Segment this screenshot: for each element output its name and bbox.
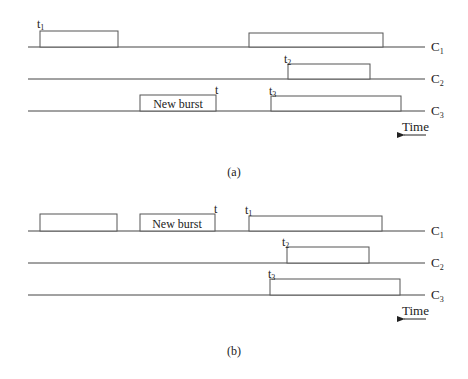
c2-burst-t2 xyxy=(287,247,369,263)
t3-label: t3 xyxy=(268,267,275,282)
c1-burst-t1 xyxy=(40,31,118,47)
c1-burst xyxy=(249,33,383,47)
c1-burst-old xyxy=(40,214,117,231)
new-burst-label: New burst xyxy=(153,97,203,111)
channel-c1-label: C1 xyxy=(431,39,444,56)
channel-c3-label: C3 xyxy=(431,103,444,120)
t3-label: t3 xyxy=(269,84,276,99)
channel-c3-label: C3 xyxy=(431,287,444,304)
c1-burst-t1 xyxy=(249,216,382,231)
channel-c1-label: C1 xyxy=(431,223,444,240)
c2-burst-t2 xyxy=(288,64,370,79)
c3-burst-t3 xyxy=(270,279,400,295)
t1-label: t1 xyxy=(37,17,44,32)
caption-b: (b) xyxy=(227,344,241,358)
t2-label: t2 xyxy=(282,235,289,250)
time-label: Time xyxy=(402,303,429,318)
channel-c2-label: C2 xyxy=(431,255,444,272)
t-label: t xyxy=(214,202,218,216)
burst-timing-diagram: t1 C1 t2 C2 New burst t t3 C3 Time (a) N… xyxy=(0,0,468,379)
t2-label: t2 xyxy=(284,52,291,67)
channel-c2-label: C2 xyxy=(431,71,444,88)
t1-label: t1 xyxy=(245,203,252,218)
c3-burst-t3 xyxy=(271,96,401,111)
new-burst-label: New burst xyxy=(152,217,202,231)
panel-b: New burst t t1 C1 t2 C2 t3 C3 Time (b) xyxy=(28,202,444,358)
t-label: t xyxy=(215,83,219,97)
time-label: Time xyxy=(402,119,429,134)
panel-a: t1 C1 t2 C2 New burst t t3 C3 Time (a) xyxy=(28,17,444,179)
caption-a: (a) xyxy=(227,165,240,179)
